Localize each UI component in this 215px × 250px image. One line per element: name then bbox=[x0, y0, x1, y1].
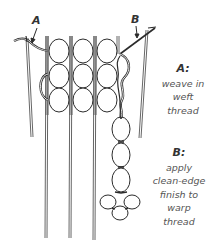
caption-b: B: apply clean-edge finish to warp threa… bbox=[143, 146, 215, 228]
caption-b-line: clean-edge bbox=[143, 174, 215, 188]
caption-b-line: finish to bbox=[143, 188, 215, 202]
caption-b-line: apply bbox=[143, 161, 215, 175]
caption-b-line: warp bbox=[143, 201, 215, 215]
callout-label-a: A bbox=[32, 15, 41, 26]
caption-b-title: B: bbox=[143, 146, 215, 160]
weft-loop-left bbox=[41, 74, 49, 100]
weft-thread-a bbox=[14, 39, 48, 51]
warp-thread-b bbox=[117, 28, 155, 118]
bead-strand bbox=[100, 117, 140, 220]
callout-label-b: B bbox=[131, 14, 139, 25]
caption-b-line: thread bbox=[143, 215, 215, 229]
caption-a-line: weave in bbox=[151, 77, 215, 91]
arrow-b bbox=[135, 26, 139, 38]
arrow-a bbox=[31, 28, 37, 43]
caption-a-line: weft bbox=[151, 90, 215, 104]
caption-a-line: thread bbox=[151, 104, 215, 118]
bead-grid bbox=[49, 39, 117, 112]
caption-a: A: weave in weft thread bbox=[151, 62, 215, 117]
caption-a-title: A: bbox=[151, 62, 215, 76]
